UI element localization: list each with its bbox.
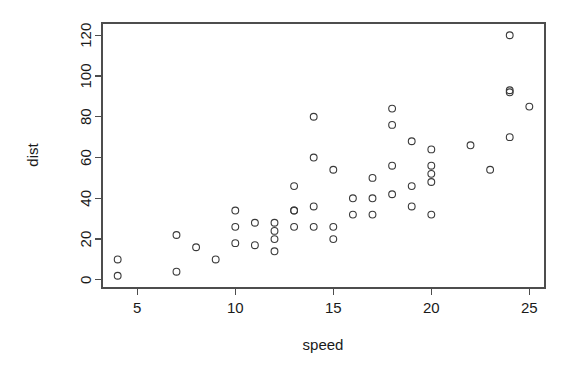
x-tick-label: 5 [133,299,141,316]
data-point [114,256,121,263]
data-point [369,175,376,182]
x-tick-label: 25 [521,299,538,316]
x-tick-label: 10 [227,299,244,316]
data-point [193,244,200,251]
data-point [291,183,298,190]
data-point [330,223,337,230]
x-axis-title: speed [303,336,344,353]
data-point [310,154,317,161]
data-point [428,170,435,177]
data-point [271,248,278,255]
x-axis-ticks [137,288,529,295]
data-point [271,219,278,226]
data-point [310,203,317,210]
data-point [428,179,435,186]
data-point [428,162,435,169]
data-point [232,223,239,230]
y-tick-label: 80 [77,108,94,125]
data-point [291,223,298,230]
plot-canvas: 510152025 020406080100120 speed dist [0,0,573,374]
data-point [428,211,435,218]
data-point [173,232,180,239]
y-tick-label: 120 [77,23,94,48]
data-point [487,166,494,173]
data-point [251,219,258,226]
data-point [526,103,533,110]
data-point [271,228,278,235]
data-point [251,242,258,249]
x-tick-label: 15 [325,299,342,316]
plot-box [102,23,545,288]
data-point [408,138,415,145]
y-tick-label: 40 [77,190,94,207]
y-axis-tick-labels: 020406080100120 [77,23,94,284]
y-tick-label: 20 [77,231,94,248]
data-point [506,134,513,141]
data-point [428,146,435,153]
data-point [291,207,298,214]
data-point [212,256,219,263]
y-tick-label: 60 [77,149,94,166]
data-point [271,236,278,243]
data-point [389,122,396,129]
y-tick-label: 100 [77,63,94,88]
data-point [114,272,121,279]
data-point [389,191,396,198]
scatter-plot-figure: 510152025 020406080100120 speed dist [0,0,573,374]
y-axis-ticks [95,35,102,280]
data-point [330,166,337,173]
data-point [369,211,376,218]
data-point [389,162,396,169]
x-tick-label: 20 [423,299,440,316]
y-tick-label: 0 [77,276,94,284]
data-point [408,183,415,190]
data-point [350,195,357,202]
data-point [369,195,376,202]
x-axis-tick-labels: 510152025 [133,299,538,316]
data-point [408,203,415,210]
data-point [173,268,180,275]
data-point [232,207,239,214]
data-point [310,223,317,230]
data-point [506,32,513,39]
y-axis-title: dist [24,142,41,166]
data-point [330,236,337,243]
data-point [389,105,396,112]
data-point [350,211,357,218]
data-point [310,113,317,120]
data-point [232,240,239,247]
data-point [467,142,474,149]
data-points [114,32,532,279]
